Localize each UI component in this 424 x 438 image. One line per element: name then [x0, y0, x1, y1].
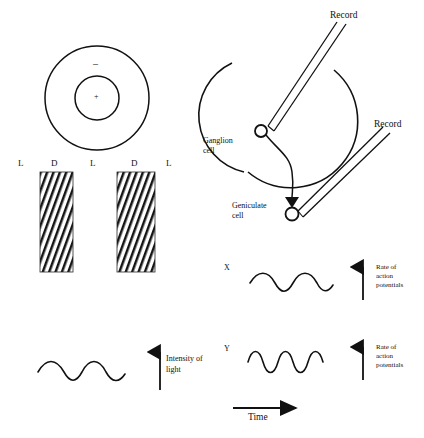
figure-vector-layer: [0, 0, 424, 438]
x-rate-label-line2: action: [376, 273, 393, 281]
geniculate-cell-soma: [286, 208, 299, 221]
figure-canvas: – + L D L D L Intensity of light Record …: [0, 0, 424, 438]
band-label-l-3: L: [166, 158, 172, 168]
y-rate-label-line1: Rate of: [376, 344, 396, 352]
x-cell-label: X: [224, 264, 230, 273]
x-response-waveform: [250, 273, 333, 291]
record-label-ganglion: Record: [330, 10, 357, 21]
intensity-waveform: [38, 362, 125, 381]
record-electrode-ganglion-tip: [268, 126, 274, 131]
ganglion-cell-label-line2: cell: [203, 147, 215, 156]
dark-bar-2: [117, 172, 155, 272]
record-label-geniculate: Record: [374, 119, 401, 130]
band-label-l-2: L: [90, 158, 96, 168]
intensity-label-line2: light: [166, 366, 181, 375]
geniculate-cell-label-line2: cell: [232, 212, 244, 221]
ganglion-cell-soma: [255, 125, 267, 137]
x-rate-label-line1: Rate of: [376, 264, 396, 272]
record-electrode-geniculate-icon: [298, 127, 383, 211]
x-rate-label-line3: potentials: [376, 282, 403, 290]
record-electrode-geniculate-icon-b: [303, 133, 390, 217]
y-rate-label-line3: potentials: [376, 362, 403, 370]
time-axis-label: Time: [248, 412, 268, 423]
geniculate-cell-label-line1: Geniculate: [232, 202, 267, 211]
y-rate-label-line2: action: [376, 353, 393, 361]
band-label-l-1: L: [18, 158, 24, 168]
center-sign: +: [94, 92, 99, 101]
ganglion-axon: [266, 135, 293, 198]
synaptic-terminal-icon: [285, 197, 299, 208]
surround-sign: –: [93, 58, 98, 69]
dark-bar-1: [40, 172, 73, 272]
record-electrode-ganglion-icon: [268, 22, 337, 126]
ganglion-cell-label-line1: Ganglion: [203, 137, 233, 146]
intensity-label-line1: Intensity of: [166, 355, 203, 364]
band-label-d-2: D: [131, 158, 138, 168]
band-label-d-1: D: [51, 158, 58, 168]
record-electrode-ganglion-icon-b: [274, 24, 346, 131]
y-response-waveform: [248, 352, 323, 373]
y-cell-label: Y: [224, 345, 230, 354]
